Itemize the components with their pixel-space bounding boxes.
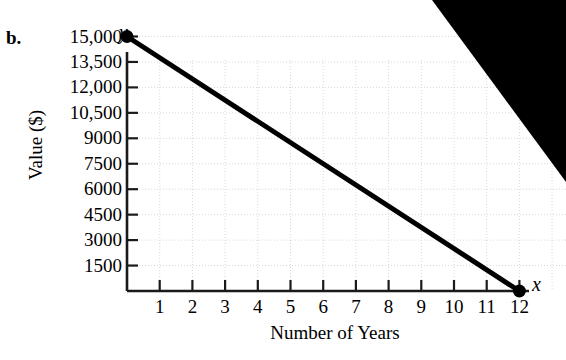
plot-area [0,0,566,360]
gridlines [127,37,566,292]
chart-page: b. Value ($) Number of Years y x 1500300… [0,0,566,360]
